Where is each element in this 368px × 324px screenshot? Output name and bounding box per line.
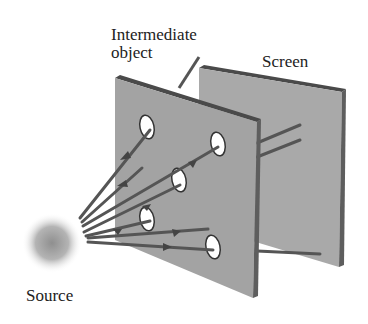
screen-label: Screen [262,53,308,71]
intermediate-object-label: Intermediate object [111,26,197,62]
source-glow-icon [22,213,82,273]
source-label: Source [26,287,73,305]
